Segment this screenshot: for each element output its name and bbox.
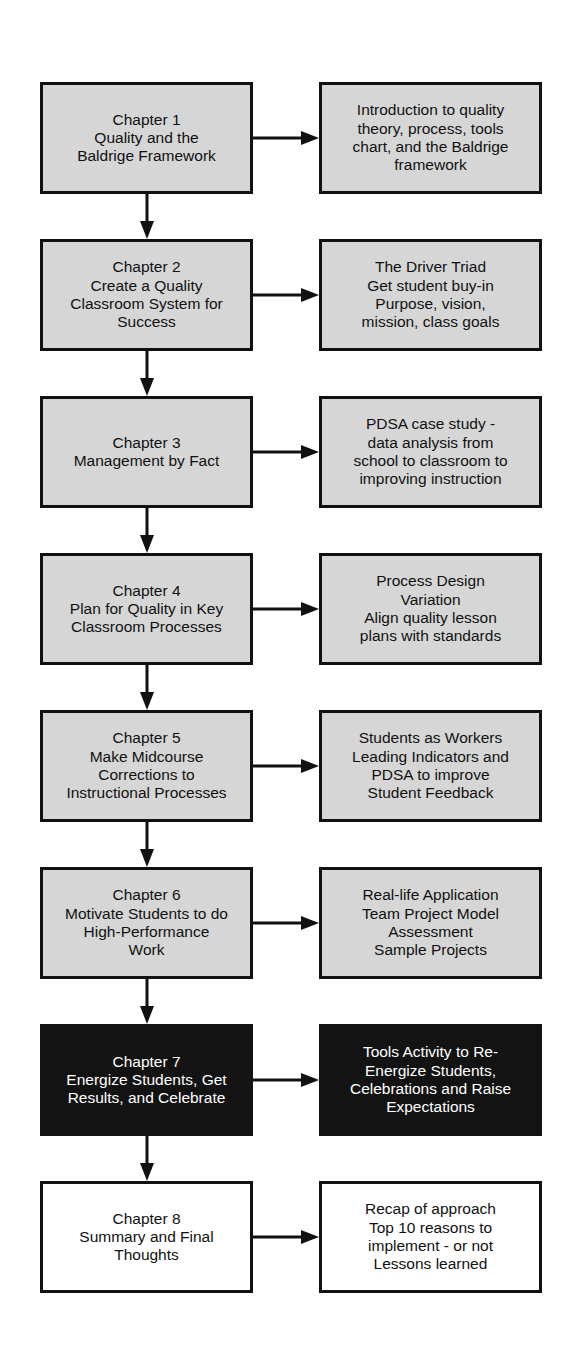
flow-row: Chapter 1 Quality and the Baldrige Frame… <box>0 82 573 194</box>
description-box: Recap of approach Top 10 reasons to impl… <box>319 1181 542 1293</box>
down-arrow-icon <box>139 194 155 239</box>
down-arrow-icon <box>139 979 155 1024</box>
description-box-text: The Driver Triad Get student buy-in Purp… <box>362 258 500 331</box>
down-arrow-icon <box>139 508 155 553</box>
chapter-box: Chapter 4 Plan for Quality in Key Classr… <box>40 553 253 665</box>
flow-row: Chapter 8 Summary and Final ThoughtsReca… <box>0 1181 573 1293</box>
chapter-box: Chapter 3 Management by Fact <box>40 396 253 508</box>
description-box-text: Recap of approach Top 10 reasons to impl… <box>365 1200 496 1273</box>
down-arrow-icon <box>139 665 155 710</box>
chapter-box: Chapter 1 Quality and the Baldrige Frame… <box>40 82 253 194</box>
flow-row: Chapter 3 Management by FactPDSA case st… <box>0 396 573 508</box>
down-arrow-icon <box>139 822 155 867</box>
down-arrow-icon <box>139 351 155 396</box>
right-arrow-icon <box>253 915 319 931</box>
right-arrow-icon <box>253 444 319 460</box>
chapter-box-text: Chapter 2 Create a Quality Classroom Sys… <box>70 258 222 331</box>
description-box: The Driver Triad Get student buy-in Purp… <box>319 239 542 351</box>
chapter-box: Chapter 2 Create a Quality Classroom Sys… <box>40 239 253 351</box>
chapter-box: Chapter 6 Motivate Students to do High-P… <box>40 867 253 979</box>
chapter-box-text: Chapter 4 Plan for Quality in Key Classr… <box>70 582 223 637</box>
right-arrow-icon <box>253 1072 319 1088</box>
down-arrow-icon <box>139 1136 155 1181</box>
right-arrow-icon <box>253 1229 319 1245</box>
chapter-box: Chapter 5 Make Midcourse Corrections to … <box>40 710 253 822</box>
right-arrow-icon <box>253 758 319 774</box>
flow-row: Chapter 5 Make Midcourse Corrections to … <box>0 710 573 822</box>
chapter-box-text: Chapter 5 Make Midcourse Corrections to … <box>66 729 226 802</box>
flow-row: Chapter 6 Motivate Students to do High-P… <box>0 867 573 979</box>
description-box: Introduction to quality theory, process,… <box>319 82 542 194</box>
chapter-box-text: Chapter 7 Energize Students, Get Results… <box>66 1053 226 1108</box>
chapter-flowchart: Chapter 1 Quality and the Baldrige Frame… <box>0 0 573 1364</box>
chapter-box-text: Chapter 6 Motivate Students to do High-P… <box>65 886 228 959</box>
description-box: Students as Workers Leading Indicators a… <box>319 710 542 822</box>
description-box-text: Tools Activity to Re- Energize Students,… <box>350 1043 511 1116</box>
chapter-box: Chapter 8 Summary and Final Thoughts <box>40 1181 253 1293</box>
description-box-text: Process Design Variation Align quality l… <box>360 572 501 645</box>
chapter-box-text: Chapter 3 Management by Fact <box>74 434 220 471</box>
description-box-text: PDSA case study - data analysis from sch… <box>353 415 507 488</box>
right-arrow-icon <box>253 601 319 617</box>
chapter-box: Chapter 7 Energize Students, Get Results… <box>40 1024 253 1136</box>
flow-row: Chapter 2 Create a Quality Classroom Sys… <box>0 239 573 351</box>
description-box-text: Students as Workers Leading Indicators a… <box>352 729 509 802</box>
flow-row: Chapter 7 Energize Students, Get Results… <box>0 1024 573 1136</box>
description-box: PDSA case study - data analysis from sch… <box>319 396 542 508</box>
description-box-text: Introduction to quality theory, process,… <box>353 101 509 174</box>
chapter-box-text: Chapter 1 Quality and the Baldrige Frame… <box>77 111 216 166</box>
description-box: Tools Activity to Re- Energize Students,… <box>319 1024 542 1136</box>
description-box: Process Design Variation Align quality l… <box>319 553 542 665</box>
right-arrow-icon <box>253 287 319 303</box>
flow-row: Chapter 4 Plan for Quality in Key Classr… <box>0 553 573 665</box>
description-box-text: Real-life Application Team Project Model… <box>362 886 499 959</box>
right-arrow-icon <box>253 130 319 146</box>
chapter-box-text: Chapter 8 Summary and Final Thoughts <box>79 1210 213 1265</box>
description-box: Real-life Application Team Project Model… <box>319 867 542 979</box>
